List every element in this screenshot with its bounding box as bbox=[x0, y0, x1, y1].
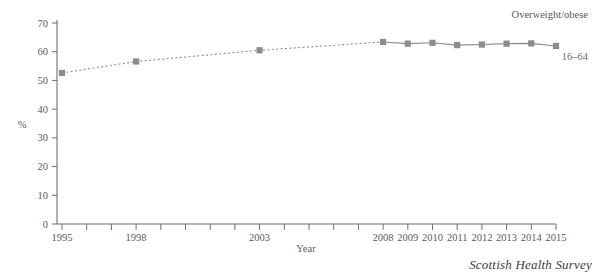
y-tick-label: 70 bbox=[38, 18, 49, 29]
data-point-marker: 2008: 63.4% bbox=[380, 39, 386, 45]
data-point-marker: 2010: 63.1% bbox=[429, 40, 435, 46]
y-tick-label: 30 bbox=[38, 132, 49, 143]
data-point-marker: 2015: 62% bbox=[553, 43, 559, 49]
series-segment-dashed bbox=[62, 42, 383, 73]
data-point-marker: 2003: 60.5% bbox=[257, 47, 263, 53]
y-tick-label: 40 bbox=[38, 104, 49, 115]
y-tick-label: 60 bbox=[38, 46, 49, 57]
chart-container: 706050403020100 199519982003200820092010… bbox=[0, 0, 600, 278]
y-tick-label: 20 bbox=[38, 161, 49, 172]
y-axis-title: % bbox=[18, 119, 27, 130]
x-axis-tick-labels: 1995199820032008200920102011201220132014… bbox=[52, 232, 567, 243]
x-axis-ticks bbox=[62, 224, 556, 230]
y-tick-label: 50 bbox=[38, 75, 49, 86]
x-tick-label: 2010 bbox=[422, 232, 443, 243]
x-tick-label: 2003 bbox=[249, 232, 270, 243]
line-chart: 706050403020100 199519982003200820092010… bbox=[0, 0, 600, 278]
x-tick-label: 2012 bbox=[471, 232, 492, 243]
data-point-marker: 2013: 62.8% bbox=[504, 41, 510, 47]
y-tick-label: 10 bbox=[38, 190, 49, 201]
y-axis-tick-labels: 706050403020100 bbox=[38, 18, 49, 230]
data-point-marker: 1998: 56.6% bbox=[133, 58, 139, 64]
y-axis-ticks bbox=[52, 23, 57, 224]
data-point-marker: 2012: 62.5% bbox=[479, 41, 485, 47]
x-tick-label: 2013 bbox=[496, 232, 517, 243]
series-annotation-label: 16–64 bbox=[562, 51, 589, 62]
y-tick-label: 0 bbox=[43, 219, 48, 230]
x-tick-label: 2009 bbox=[397, 232, 418, 243]
data-point-marker: 2009: 62.8% bbox=[405, 41, 411, 47]
x-tick-label: 1995 bbox=[52, 232, 73, 243]
source-attribution: Scottish Health Survey bbox=[469, 257, 592, 273]
series-markers: 1995: 52.6%1998: 56.6%2003: 60.5%2008: 6… bbox=[59, 39, 559, 76]
x-tick-label: 2008 bbox=[373, 232, 394, 243]
x-tick-label: 1998 bbox=[126, 232, 147, 243]
group-annotation-label: Overweight/obese bbox=[512, 9, 589, 20]
data-point-marker: 2011: 62.3% bbox=[454, 42, 460, 48]
x-axis-title: Year bbox=[296, 243, 316, 254]
x-tick-label: 2015 bbox=[546, 232, 567, 243]
x-tick-label: 2014 bbox=[521, 232, 543, 243]
data-point-marker: 1995: 52.6% bbox=[59, 70, 65, 76]
x-tick-label: 2011 bbox=[447, 232, 468, 243]
axis-lines bbox=[57, 20, 556, 224]
data-point-marker: 2014: 62.9% bbox=[528, 40, 534, 46]
